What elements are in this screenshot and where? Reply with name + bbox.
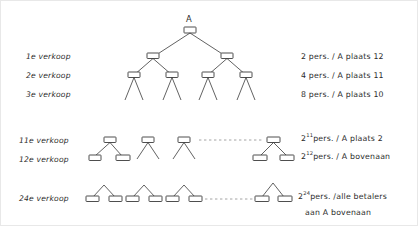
diagram-canvas: A 1e verkoop 2e verkoop 3e verkoop 11e v… <box>0 0 418 226</box>
tree-node-l2-2 <box>166 72 178 78</box>
tree-node-l2-4 <box>240 72 252 78</box>
tree-node-root <box>184 27 196 33</box>
tree-node-l2-3 <box>202 72 214 78</box>
tree-group-11-b <box>137 137 159 159</box>
tree-group-24-b <box>126 185 162 202</box>
tree-group-11-c <box>173 137 195 159</box>
row-label-3e-verkoop: 3e verkoop <box>26 91 71 99</box>
annotation-2e-verkoop: 4 pers. / A plaats 11 <box>301 72 384 80</box>
row-label-24e-verkoop: 24e verkoop <box>19 195 69 203</box>
root-node-label: A <box>186 15 192 23</box>
annotation-3e-verkoop: 8 pers. / A plaats 10 <box>301 91 384 99</box>
tree-node-l1-right <box>221 53 233 59</box>
row-label-11e-verkoop: 11e verkoop <box>19 137 69 145</box>
annotation-11e-verkoop: 211pers. / A plaats 2 <box>301 135 383 143</box>
annotation-1e-verkoop: 2 pers. / A plaats 12 <box>301 53 384 61</box>
tree-group-24-c <box>166 185 202 202</box>
tree-group-11-last <box>253 137 294 161</box>
tree-group-11-a <box>89 137 130 161</box>
annotation-24e-verkoop: 224pers. /alle betalers <box>298 193 387 201</box>
tree-node-l2-1 <box>128 72 140 78</box>
tree-group-24-a <box>86 185 122 202</box>
tree-node-l1-left <box>147 53 159 59</box>
row-label-2e-verkoop: 2e verkoop <box>26 72 71 80</box>
annotation-text: pers. /alle betalers <box>310 192 387 201</box>
annotation-text: pers. / A plaats 2 <box>313 134 383 143</box>
annotation-text: pers. / A bovenaan <box>313 152 390 161</box>
annotation-12e-verkoop: 212pers. / A bovenaan <box>301 153 390 161</box>
annotation-24e-verkoop-line2: aan A bovenaan <box>305 209 371 217</box>
row-label-12e-verkoop: 12e verkoop <box>19 156 69 164</box>
row-label-1e-verkoop: 1e verkoop <box>26 53 71 61</box>
tree-group-24-last <box>255 183 292 202</box>
